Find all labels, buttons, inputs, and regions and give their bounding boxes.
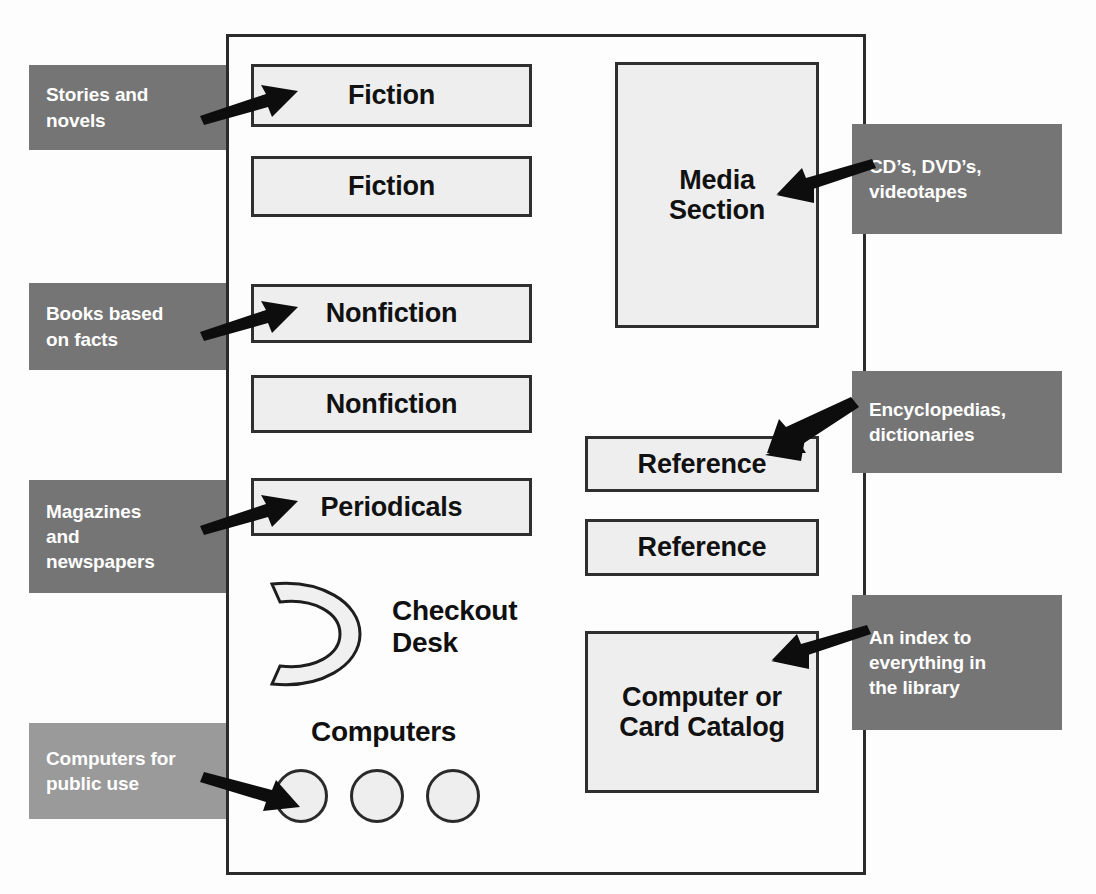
callout-line: An index to (869, 625, 1046, 650)
area-box-nonfiction-1: Nonfiction (251, 284, 532, 343)
callout-line: Magazines (46, 499, 210, 524)
area-box-periodicals: Periodicals (251, 478, 532, 536)
area-label-line1: Media (679, 165, 755, 195)
computer-station-1 (274, 769, 328, 823)
area-box-fiction-1: Fiction (251, 64, 532, 127)
area-box-fiction-2: Fiction (251, 156, 532, 217)
callout-books-based-on-facts: Books based on facts (29, 283, 226, 370)
callout-line: newspapers (46, 549, 210, 574)
callout-line: CD’s, DVD’s, (869, 154, 1046, 179)
callout-line: novels (46, 108, 210, 133)
callout-line: videotapes (869, 179, 1046, 204)
area-label: Reference (638, 449, 767, 479)
area-label: Reference (638, 532, 767, 562)
library-floor-plan-diagram: Fiction Fiction Nonfiction Nonfiction Pe… (0, 0, 1096, 894)
checkout-desk-label-line1: Checkout (392, 595, 582, 627)
checkout-desk-label-line2: Desk (392, 627, 582, 659)
area-label-line2: Card Catalog (619, 712, 785, 742)
callout-line: Books based (46, 301, 210, 326)
callout-cds-dvds-videotapes: CD’s, DVD’s, videotapes (852, 124, 1062, 234)
area-label: Periodicals (321, 492, 463, 522)
computer-station-3 (426, 769, 480, 823)
callout-magazines-and-newspapers: Magazines and newspapers (29, 480, 226, 593)
callout-line: everything in (869, 650, 1046, 675)
area-box-nonfiction-2: Nonfiction (251, 375, 532, 433)
area-label-line2: Section (669, 195, 765, 225)
callout-line: the library (869, 675, 1046, 700)
callout-index-to-everything: An index to everything in the library (852, 595, 1062, 730)
callout-encyclopedias-dictionaries: Encyclopedias, dictionaries (852, 371, 1062, 473)
computer-station-2 (350, 769, 404, 823)
checkout-desk-label: Checkout Desk (392, 595, 582, 660)
callout-line: on facts (46, 327, 210, 352)
area-box-computer-card-catalog: Computer or Card Catalog (585, 631, 819, 793)
area-label: Fiction (348, 171, 435, 201)
area-box-reference-1: Reference (585, 436, 819, 492)
area-label: Fiction (348, 80, 435, 110)
area-label-line1: Computer or (622, 682, 782, 712)
callout-line: Encyclopedias, (869, 397, 1046, 422)
callout-line: and (46, 524, 210, 549)
checkout-desk-shape (262, 578, 372, 690)
area-label: Nonfiction (326, 389, 457, 419)
callout-computers-for-public-use: Computers for public use (29, 723, 226, 819)
area-box-media-section: Media Section (615, 62, 819, 328)
callout-line: Computers for (46, 746, 210, 771)
computers-label: Computers (311, 716, 456, 748)
callout-line: dictionaries (869, 422, 1046, 447)
callout-stories-and-novels: Stories and novels (29, 65, 226, 150)
area-label: Nonfiction (326, 298, 457, 328)
area-box-reference-2: Reference (585, 519, 819, 576)
callout-line: public use (46, 771, 210, 796)
callout-line: Stories and (46, 82, 210, 107)
